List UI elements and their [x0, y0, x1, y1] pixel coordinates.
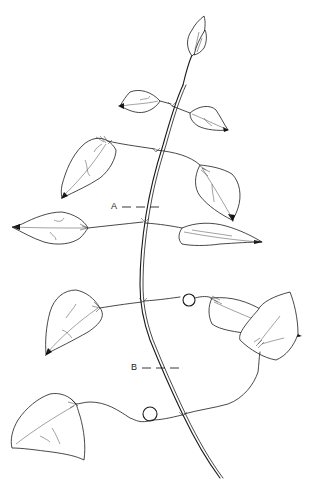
leaf-pair-2 — [61, 136, 240, 222]
node-marks — [139, 102, 187, 416]
botanical-illustration: A B — [0, 0, 316, 487]
label-a: A — [111, 202, 117, 211]
tendril-loop — [143, 407, 157, 421]
leaf-pair-3 — [12, 212, 263, 246]
vine-drawing — [0, 0, 316, 487]
tendril-loop — [183, 294, 195, 306]
main-stem — [140, 85, 223, 478]
label-b: B — [131, 363, 137, 372]
leaf-pair-4 — [45, 290, 302, 360]
flower-bud — [183, 16, 206, 85]
